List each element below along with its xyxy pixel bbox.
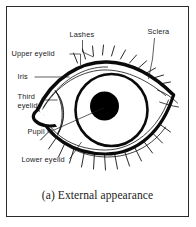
label-iris: Iris <box>18 72 29 81</box>
label-third-eyelid-line1: Third <box>18 92 36 101</box>
label-third-eyelid-line2: eyelid <box>18 101 38 110</box>
label-upper-eyelid: Upper eyelid <box>12 49 55 58</box>
eye-diagram: Lashes Sclera Upper eyelid Iris Third ey… <box>7 7 188 192</box>
label-sclera: Sclera <box>148 27 171 36</box>
figure-caption: (a) External appearance <box>42 189 153 201</box>
eye-diagram-svg: Lashes Sclera Upper eyelid Iris Third ey… <box>7 7 188 192</box>
figure-panel: Lashes Sclera Upper eyelid Iris Third ey… <box>6 6 189 217</box>
label-pupil: Pupil <box>28 127 45 136</box>
pupil-circle <box>90 92 119 121</box>
caption-bar: (a) External appearance <box>7 174 188 216</box>
label-lower-eyelid: Lower eyelid <box>22 155 65 164</box>
label-lashes: Lashes <box>70 30 95 39</box>
